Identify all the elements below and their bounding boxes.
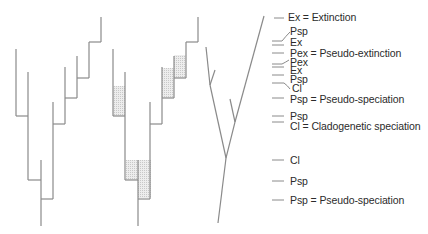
legend-pseudo-speciation: Psp = Pseudo-speciation: [290, 94, 404, 105]
tree-2-lineages: [113, 17, 198, 226]
label-ticks: [272, 18, 290, 200]
legend-pseudo-speciation-2: Psp = Pseudo-speciation: [290, 195, 404, 206]
tree-1-lineages: [16, 17, 101, 226]
label-psp-4: Psp: [290, 176, 308, 187]
tree-3-cladogram: [206, 16, 264, 223]
legend-extinction: Ex = Extinction: [288, 12, 356, 23]
label-cl-2: Cl: [290, 155, 300, 166]
legend-cladogenetic-speciation: Cl = Cladogenetic speciation: [290, 121, 421, 132]
